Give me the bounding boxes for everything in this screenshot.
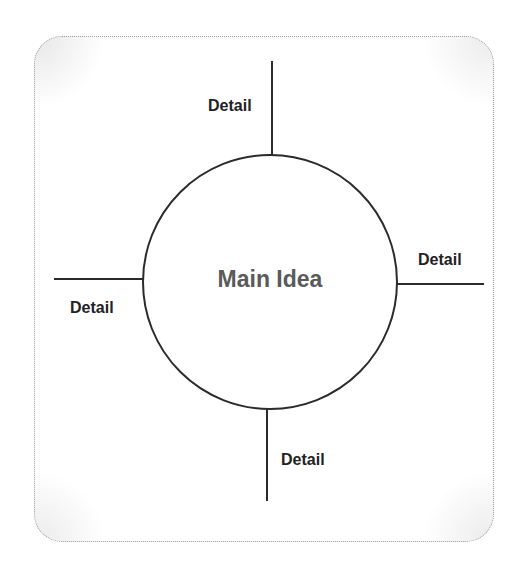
detail-label-top: Detail xyxy=(208,98,252,114)
detail-label-left: Detail xyxy=(70,300,114,316)
main-idea-label: Main Idea xyxy=(143,268,397,291)
detail-label-bottom: Detail xyxy=(281,452,325,468)
detail-label-right: Detail xyxy=(418,252,462,268)
